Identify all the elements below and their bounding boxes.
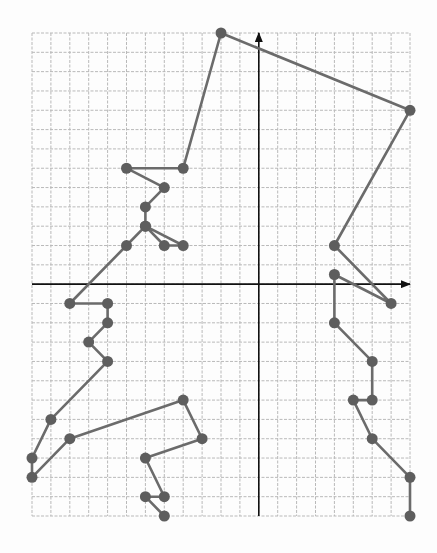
data-point: [329, 317, 340, 328]
data-point: [367, 356, 378, 367]
grid-lines: [32, 33, 410, 516]
data-point: [329, 240, 340, 251]
data-point: [329, 269, 340, 280]
data-point: [102, 317, 113, 328]
data-point: [83, 337, 94, 348]
data-point: [121, 240, 132, 251]
data-point: [159, 240, 170, 251]
data-point: [178, 395, 189, 406]
data-point: [367, 395, 378, 406]
data-point: [159, 511, 170, 522]
data-point: [64, 433, 75, 444]
data-point: [367, 433, 378, 444]
data-point: [102, 298, 113, 309]
data-point: [140, 491, 151, 502]
data-point: [159, 491, 170, 502]
data-point: [140, 221, 151, 232]
data-point: [197, 433, 208, 444]
data-point: [348, 395, 359, 406]
data-point: [102, 356, 113, 367]
data-point: [386, 298, 397, 309]
data-point: [140, 453, 151, 464]
data-point: [178, 240, 189, 251]
coordinate-plane: [0, 0, 437, 553]
data-point: [45, 414, 56, 425]
data-point: [27, 453, 38, 464]
data-point: [64, 298, 75, 309]
data-point: [405, 472, 416, 483]
data-point: [27, 472, 38, 483]
data-point: [405, 105, 416, 116]
data-point: [121, 163, 132, 174]
coordinate-plane-figure: [0, 0, 437, 553]
data-point: [405, 511, 416, 522]
data-point: [216, 28, 227, 39]
data-point: [159, 182, 170, 193]
data-point: [140, 201, 151, 212]
data-point: [178, 163, 189, 174]
